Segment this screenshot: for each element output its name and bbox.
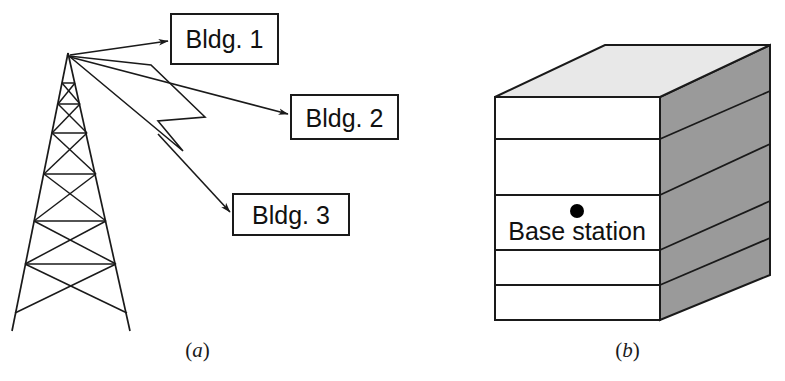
caption-a-close: ): [203, 338, 210, 362]
panel-caption-a: (a): [150, 338, 245, 363]
hollow-zigzag-arrow-body: [69, 56, 205, 151]
tower-brace: [34, 221, 116, 264]
bldg-3-box[interactable]: Bldg. 3: [233, 194, 349, 235]
panel-caption-b: (b): [580, 338, 675, 363]
tower-brace: [25, 264, 127, 313]
tower-brace: [52, 133, 96, 174]
base-station-dot-icon: [570, 204, 584, 218]
arrow-to-bldg-3: [158, 134, 230, 212]
diagram-canvas: Bldg. 1 Bldg. 2 Bldg. 3: [0, 0, 785, 381]
caption-a-letter: a: [192, 338, 203, 362]
caption-b-close: ): [633, 338, 640, 362]
tower-rungs: [25, 83, 116, 264]
base-station-building: Base station: [495, 45, 770, 320]
lattice-tower: [12, 53, 130, 331]
base-station-label: Base station: [508, 217, 646, 245]
bldg-2-box[interactable]: Bldg. 2: [291, 95, 398, 139]
bldg-2-label: Bldg. 2: [306, 104, 384, 132]
caption-b-letter: b: [622, 338, 633, 362]
arrow-to-bldg-2: [70, 57, 288, 114]
tower-brace: [25, 221, 106, 264]
bldg-1-box[interactable]: Bldg. 1: [171, 14, 278, 64]
tower-leg-left: [12, 53, 68, 331]
tower-brace: [15, 264, 116, 313]
bldg-1-label: Bldg. 1: [186, 25, 264, 53]
tower-cross-braces: [15, 83, 127, 313]
tower-brace: [34, 174, 96, 221]
figure-container: Bldg. 1 Bldg. 2 Bldg. 3: [0, 0, 785, 381]
arrow-to-bldg-1: [70, 41, 168, 55]
bldg-3-label: Bldg. 3: [252, 201, 330, 229]
